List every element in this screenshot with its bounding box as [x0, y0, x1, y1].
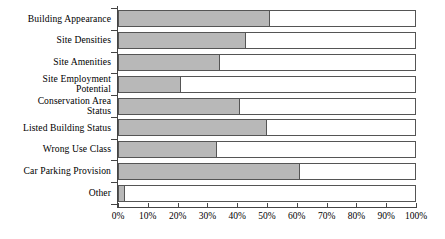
category-label-conservation-area-status: Conservation Area Status	[0, 95, 115, 117]
category-label-listed-building-status: Listed Building Status	[0, 117, 115, 139]
bar-fill-site-employment-potential	[119, 77, 181, 92]
category-label-wrong-use-class: Wrong Use Class	[0, 139, 115, 161]
bar-row	[118, 54, 416, 71]
bar-track-other	[118, 185, 416, 202]
bar-row	[118, 76, 416, 93]
x-axis-tick-label: 10%	[139, 210, 156, 222]
bar-track-wrong-use-class	[118, 141, 416, 158]
bar-fill-wrong-use-class	[119, 142, 217, 157]
bar-track-conservation-area-status	[118, 98, 416, 115]
bar-row	[118, 10, 416, 27]
x-axis-tick-labels: 0%10%20%30%40%50%60%70%80%90%100%	[118, 210, 416, 224]
category-label-car-parking-provision: Car Parking Provision	[0, 160, 115, 182]
bar-row	[118, 141, 416, 158]
bar-fill-site-amenities	[119, 55, 220, 70]
x-axis-tick-label: 50%	[258, 210, 275, 222]
x-axis-tick-label: 100%	[405, 210, 427, 222]
bar-row	[118, 185, 416, 202]
x-axis-tick	[267, 203, 268, 208]
x-axis-tick-label: 30%	[199, 210, 216, 222]
y-axis-tick	[111, 73, 118, 74]
bar-row	[118, 119, 416, 136]
category-label-building-appearance: Building Appearance	[0, 8, 115, 30]
x-axis-tick	[327, 203, 328, 208]
bar-track-site-densities	[118, 32, 416, 49]
y-axis-tick	[111, 139, 118, 140]
bar-fill-car-parking-provision	[119, 164, 300, 179]
x-axis-tick	[416, 203, 417, 208]
plot-area	[118, 8, 416, 204]
x-axis-tick-label: 70%	[318, 210, 335, 222]
y-axis-tick	[111, 52, 118, 53]
category-label-other: Other	[0, 182, 115, 204]
x-axis-tick	[118, 203, 119, 208]
y-axis-tick	[111, 8, 118, 9]
bar-track-building-appearance	[118, 10, 416, 27]
x-axis-tick	[386, 203, 387, 208]
category-label-site-densities: Site Densities	[0, 30, 115, 52]
category-label-site-amenities: Site Amenities	[0, 52, 115, 74]
bar-row	[118, 32, 416, 49]
y-axis-tick	[111, 160, 118, 161]
x-axis-tick	[297, 203, 298, 208]
bar-track-listed-building-status	[118, 119, 416, 136]
y-axis-tick	[111, 30, 118, 31]
bar-fill-listed-building-status	[119, 120, 267, 135]
x-axis-tick	[356, 203, 357, 208]
bar-row	[118, 163, 416, 180]
x-axis-tick-label: 0%	[112, 210, 125, 222]
x-axis-tick-label: 90%	[377, 210, 394, 222]
bar-fill-conservation-area-status	[119, 99, 240, 114]
category-label-site-employment-potential: Site Employment Potential	[0, 73, 115, 95]
x-axis-tick-label: 60%	[288, 210, 305, 222]
x-axis-ticks	[118, 203, 416, 208]
y-axis-tick	[111, 117, 118, 118]
category-label-axis: Building Appearance Site Densities Site …	[0, 8, 115, 204]
x-axis-tick-label: 40%	[228, 210, 245, 222]
bar-track-site-amenities	[118, 54, 416, 71]
horizontal-bar-chart: Building Appearance Site Densities Site …	[0, 0, 445, 239]
x-axis-tick	[148, 203, 149, 208]
x-axis-tick	[207, 203, 208, 208]
bar-fill-other	[119, 186, 125, 201]
bar-fill-building-appearance	[119, 11, 270, 26]
y-axis-tick	[111, 182, 118, 183]
bar-track-site-employment-potential	[118, 76, 416, 93]
x-axis-tick	[178, 203, 179, 208]
bar-fill-site-densities	[119, 33, 246, 48]
y-axis-tick	[111, 95, 118, 96]
bar-row	[118, 98, 416, 115]
x-axis-tick-label: 80%	[348, 210, 365, 222]
x-axis-tick	[237, 203, 238, 208]
y-axis-tick	[111, 204, 118, 205]
x-axis-tick-label: 20%	[169, 210, 186, 222]
bar-track-car-parking-provision	[118, 163, 416, 180]
